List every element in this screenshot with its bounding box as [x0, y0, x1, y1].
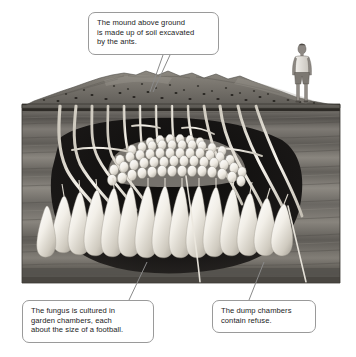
- callout-fungus: The fungus is cultured in garden chamber…: [22, 300, 154, 343]
- callout-dump: The dump chambers contain refuse.: [212, 300, 316, 333]
- callout-mound: The mound above ground is made up of soi…: [88, 12, 219, 55]
- callout-mound-line-1: The mound above ground: [97, 18, 211, 28]
- callout-mound-line-3: by the ants.: [97, 37, 211, 47]
- leader-fungus: [129, 262, 147, 300]
- callout-mound-line-2: is made up of soil excavated: [97, 28, 211, 38]
- callout-dump-line-2: contain refuse.: [221, 316, 308, 326]
- callout-fungus-line-2: garden chambers, each: [31, 316, 146, 326]
- figure-canvas: The mound above ground is made up of soi…: [0, 0, 356, 357]
- callout-fungus-line-3: about the size of a football.: [31, 325, 146, 335]
- callout-dump-line-1: The dump chambers: [221, 306, 308, 316]
- callout-fungus-line-1: The fungus is cultured in: [31, 306, 146, 316]
- leader-dump: [249, 262, 264, 300]
